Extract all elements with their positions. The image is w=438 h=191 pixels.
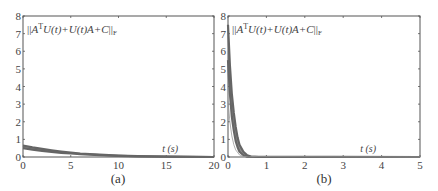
x-tick-label: 0 — [225, 159, 231, 171]
formula-annotation: ||ATU(t)+U(t)A+C||F — [27, 22, 117, 37]
chart-figure: 01234567805101520||ATU(t)+U(t)A+C||Ft (s… — [0, 0, 438, 191]
y-tick-label: 2 — [16, 116, 22, 128]
y-tick-label: 5 — [221, 63, 227, 75]
y-tick-label: 6 — [221, 45, 227, 57]
y-tick-label: 8 — [221, 10, 227, 22]
y-tick-label: 4 — [221, 81, 227, 93]
panel-label: (b) — [316, 171, 331, 186]
y-tick-label: 1 — [221, 133, 227, 145]
chart-panel-b: 012345678012345||ATU(t)+U(t)A+C||Ft (s)(… — [221, 10, 424, 186]
x-tick-label: 2 — [302, 159, 308, 171]
x-tick-label: 5 — [68, 159, 74, 171]
y-tick-label: 8 — [16, 10, 22, 22]
y-tick-label: 4 — [16, 81, 22, 93]
x-tick-label: 10 — [113, 159, 125, 171]
x-tick-label: 0 — [20, 159, 26, 171]
x-tick-label: 5 — [417, 159, 423, 171]
y-tick-label: 7 — [221, 28, 227, 40]
y-tick-label: 1 — [16, 133, 22, 145]
chart-panel-a: 01234567805101520||ATU(t)+U(t)A+C||Ft (s… — [16, 10, 221, 186]
y-tick-label: 5 — [16, 63, 22, 75]
y-tick-label: 6 — [16, 45, 22, 57]
plot-frame — [228, 16, 420, 157]
x-tick-label: 4 — [379, 159, 385, 171]
y-tick-label: 3 — [16, 98, 22, 110]
formula-annotation: ||ATU(t)+U(t)A+C||F — [232, 22, 322, 37]
y-tick-label: 2 — [221, 116, 227, 128]
x-axis-label: t (s) — [162, 143, 179, 155]
series-residual-lower — [228, 60, 420, 157]
x-axis-label: t (s) — [360, 143, 377, 155]
x-tick-label: 20 — [209, 159, 221, 171]
y-tick-label: 3 — [221, 98, 227, 110]
x-tick-label: 15 — [161, 159, 173, 171]
series-residual-upper — [228, 25, 420, 157]
plot-frame — [23, 16, 214, 157]
x-tick-label: 1 — [264, 159, 270, 171]
x-tick-label: 3 — [340, 159, 346, 171]
panel-label: (a) — [111, 171, 125, 186]
y-tick-label: 7 — [16, 28, 22, 40]
series-residual-thin — [228, 101, 420, 157]
series-band — [228, 25, 420, 157]
